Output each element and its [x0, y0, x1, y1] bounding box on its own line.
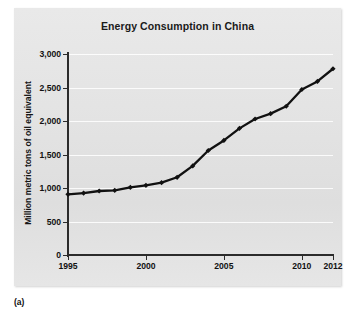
y-axis-tick	[63, 88, 68, 89]
x-axis-tick-label: 2010	[292, 261, 311, 271]
y-axis-tick	[63, 54, 68, 55]
x-axis-tick-label: 1995	[58, 261, 77, 271]
data-point-marker	[112, 188, 117, 193]
x-axis-tick-label: 2005	[214, 261, 233, 271]
series-polyline	[68, 69, 333, 195]
data-point-marker	[143, 183, 148, 188]
data-point-marker	[128, 185, 133, 190]
x-axis-tick	[68, 255, 69, 260]
y-axis-tick-label: 1,000	[39, 183, 61, 193]
y-axis-label: Million metric tons of oil equivalent	[23, 63, 33, 243]
y-axis-tick-label: 1,500	[39, 150, 61, 160]
y-axis-tick	[63, 155, 68, 156]
plot-area: 05001,0001,5002,0002,5003,00019952000200…	[68, 54, 333, 255]
y-axis-tick	[63, 222, 68, 223]
y-axis-tick-label: 3,000	[39, 49, 61, 59]
x-axis-tick-label: 2012	[323, 261, 342, 271]
y-axis-tick-label: 500	[47, 217, 61, 227]
y-axis-tick-label: 0	[56, 250, 61, 260]
data-point-marker	[81, 190, 86, 195]
y-axis-tick-label: 2,500	[39, 83, 61, 93]
figure: Energy Consumption in China Million metr…	[0, 0, 357, 320]
data-point-marker	[97, 188, 102, 193]
y-axis-tick-label: 2,000	[39, 116, 61, 126]
x-axis-tick	[333, 255, 334, 260]
x-axis-tick	[224, 255, 225, 260]
figure-caption: (a)	[14, 297, 24, 307]
x-axis-tick	[302, 255, 303, 260]
y-axis-tick	[63, 188, 68, 189]
x-axis-tick-label: 2000	[136, 261, 155, 271]
data-series-line	[68, 54, 333, 255]
y-axis-tick	[63, 121, 68, 122]
chart-title: Energy Consumption in China	[14, 20, 341, 32]
x-axis-tick	[146, 255, 147, 260]
